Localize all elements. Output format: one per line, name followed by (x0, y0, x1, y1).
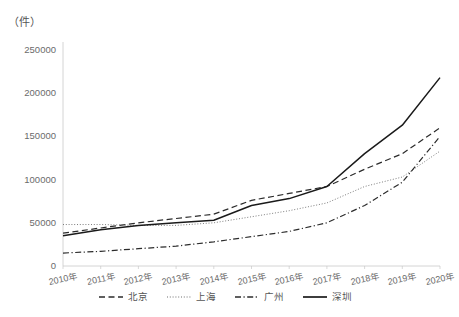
legend-item-上海[interactable]: 上海 (166, 292, 216, 302)
legend-label-上海: 上海 (196, 292, 216, 302)
series-line-北京 (63, 128, 440, 233)
axis-lines (63, 42, 440, 269)
legend-label-深圳: 深圳 (332, 292, 352, 302)
series-lines (63, 78, 440, 253)
legend-item-广州[interactable]: 广州 (234, 292, 284, 302)
legend-swatch-北京 (98, 292, 124, 302)
series-line-广州 (63, 136, 440, 253)
series-line-上海 (63, 151, 440, 225)
legend-item-深圳[interactable]: 深圳 (302, 292, 352, 302)
legend-swatch-广州 (234, 292, 260, 302)
legend-label-北京: 北京 (128, 292, 148, 302)
legend-swatch-上海 (166, 292, 192, 302)
legend-item-北京[interactable]: 北京 (98, 292, 148, 302)
legend-label-广州: 广州 (264, 292, 284, 302)
legend-swatch-深圳 (302, 292, 328, 302)
chart-legend: 北京上海广州深圳 (0, 292, 449, 302)
series-line-深圳 (63, 78, 440, 236)
